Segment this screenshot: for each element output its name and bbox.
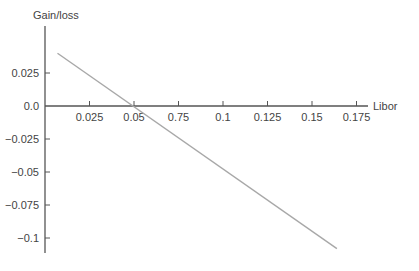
y-tick-label: −0.025 xyxy=(5,133,39,145)
y-tick-label: −0.1 xyxy=(17,232,39,244)
axes xyxy=(45,26,368,253)
series xyxy=(58,53,337,248)
x-tick-label: 0.175 xyxy=(343,111,371,123)
y-tick-label: 0.025 xyxy=(11,67,39,79)
ticks: 0.0250.050.750.10.1250.150.1750.0250.0−0… xyxy=(5,67,370,244)
x-axis-label: Libor xyxy=(373,100,398,112)
x-tick-label: 0.05 xyxy=(123,111,144,123)
x-tick-label: 0.75 xyxy=(168,111,189,123)
chart: 0.0250.050.750.10.1250.150.1750.0250.0−0… xyxy=(0,0,419,271)
x-tick-label: 0.125 xyxy=(254,111,282,123)
gain-loss-line xyxy=(58,53,337,248)
x-tick-label: 0.1 xyxy=(215,111,230,123)
x-tick-label: 0.15 xyxy=(301,111,322,123)
y-tick-label: 0.0 xyxy=(24,100,39,112)
x-tick-label: 0.025 xyxy=(76,111,104,123)
y-axis-label: Gain/loss xyxy=(33,9,79,21)
y-tick-label: −0.075 xyxy=(5,199,39,211)
y-tick-label: −0.05 xyxy=(11,166,39,178)
